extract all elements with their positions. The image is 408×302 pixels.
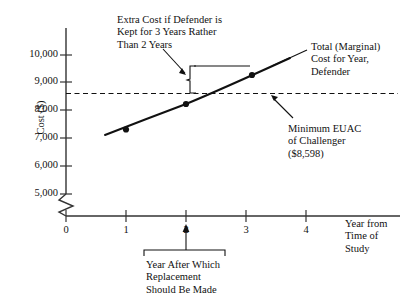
x-tick-label-3: 3 bbox=[236, 224, 256, 235]
x-tick-label-4: 4 bbox=[296, 224, 316, 235]
chart-figure: 10,000 9,000 8,000 7,000 6,000 5,000 0 1… bbox=[0, 0, 408, 302]
extra-cost-arrow-head bbox=[179, 68, 186, 75]
replacement-year-bracket bbox=[144, 250, 225, 256]
y-tick-label-6000: 6,000 bbox=[6, 159, 58, 170]
x-tick-label-0: 0 bbox=[56, 224, 76, 235]
series-label-total-marginal-cost: Total (Marginal) Cost for Year, Defender bbox=[311, 41, 407, 78]
replacement-year-annotation: Year After Which Replacement Should Be M… bbox=[146, 259, 266, 296]
min-euac-annotation: Minimum EUAC of Challenger ($8,598) bbox=[288, 123, 398, 160]
y-tick-label-10000: 10,000 bbox=[6, 48, 58, 59]
extra-cost-bracket bbox=[187, 66, 196, 93]
min-euac-leader-shaft bbox=[273, 98, 293, 118]
extra-cost-annotation: Extra Cost if Defender is Kept for 3 Yea… bbox=[117, 14, 267, 51]
x-tick-label-1: 1 bbox=[116, 224, 136, 235]
y-tick-label-8000: 8,000 bbox=[6, 103, 58, 114]
data-point-year3 bbox=[249, 72, 255, 78]
y-axis-title: Cost ($) bbox=[35, 88, 46, 148]
defender-cost-curve bbox=[105, 58, 290, 135]
x-tick-label-2: 2 bbox=[176, 224, 196, 235]
data-point-year2 bbox=[183, 101, 189, 107]
y-tick-label-9000: 9,000 bbox=[6, 75, 58, 86]
data-point-year1 bbox=[123, 126, 129, 132]
y-tick-label-7000: 7,000 bbox=[6, 131, 58, 142]
y-tick-label-5000: 5,000 bbox=[6, 187, 58, 198]
min-euac-arrow-head bbox=[271, 95, 278, 101]
x-axis-title: Year from Time of Study bbox=[345, 218, 405, 255]
total-marginal-leader-line bbox=[272, 50, 307, 66]
